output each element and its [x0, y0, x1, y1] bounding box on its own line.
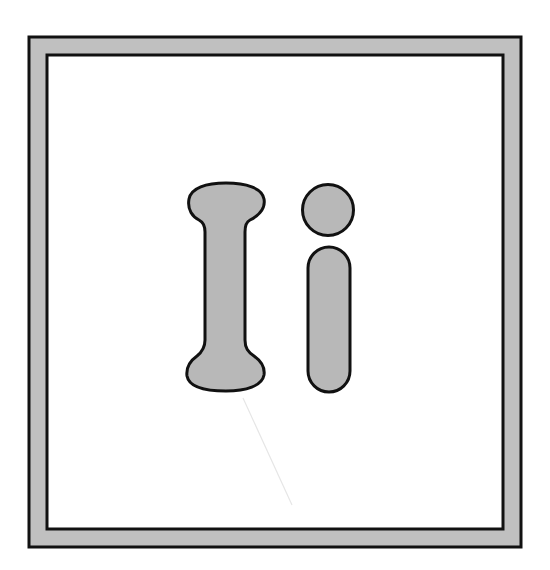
inner-panel [47, 55, 503, 529]
lowercase-i-stem [308, 247, 350, 392]
flashcard: Ii [0, 0, 550, 570]
lowercase-i-dot [303, 185, 354, 236]
